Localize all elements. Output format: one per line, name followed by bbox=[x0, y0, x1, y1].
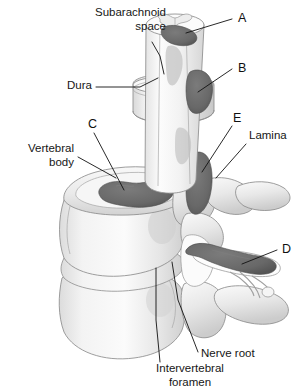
marker-letter-a: A bbox=[238, 11, 247, 25]
label-nerve-root: Nerve root bbox=[201, 347, 255, 359]
label-subarachnoid-space-line1: Subarachnoid bbox=[95, 6, 166, 18]
anatomy-illustration: Subarachnoid space Dura Vertebral body L… bbox=[0, 0, 299, 389]
marker-letter-e: E bbox=[233, 111, 241, 125]
label-intervertebral-foramen-line2: foramen bbox=[169, 376, 211, 388]
label-dura: Dura bbox=[67, 79, 93, 91]
label-subarachnoid-space-line2: space bbox=[135, 20, 166, 32]
label-intervertebral-foramen-line1: Intervertebral bbox=[156, 362, 224, 374]
marker-letter-b: B bbox=[238, 61, 246, 75]
marker-letter-d: D bbox=[282, 242, 291, 256]
anatomy-figure: Subarachnoid space Dura Vertebral body L… bbox=[0, 0, 299, 389]
label-vertebral-body-line1: Vertebral bbox=[28, 142, 74, 154]
label-lamina: Lamina bbox=[249, 129, 287, 141]
marker-letter-c: C bbox=[88, 117, 97, 131]
label-vertebral-body-line2: body bbox=[49, 156, 74, 168]
